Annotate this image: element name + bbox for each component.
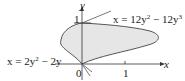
tangent-line-origin-b bbox=[82, 64, 90, 76]
curve-label-right: x = 12y2 − 12y3 bbox=[113, 14, 182, 25]
origin-label: 0 bbox=[76, 68, 82, 79]
y-tick-label-1: 1 bbox=[74, 14, 80, 25]
x-axis-label: x bbox=[164, 59, 169, 70]
curve-label-left: x = 2y2 − 2y bbox=[7, 56, 61, 67]
x-tick-label-1: 1 bbox=[123, 68, 129, 79]
y-axis-label: y bbox=[80, 0, 85, 11]
tangent-line-top bbox=[82, 11, 111, 23]
shaded-region bbox=[61, 23, 159, 64]
